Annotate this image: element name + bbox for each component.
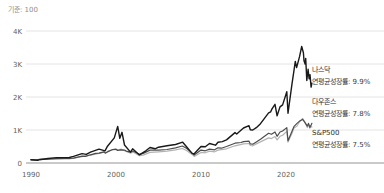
- x-axis-label: 1990: [22, 171, 40, 179]
- index-growth-chart: 기준: 100 4K3K2K1K01990200020102020 나스닥 연평…: [0, 0, 384, 193]
- series-annotation-sp500: S&P500 연평균성장률: 7.5%: [312, 129, 370, 150]
- series-growth-rate-nasdaq: 연평균성장률: 9.9%: [312, 78, 370, 87]
- series-name-sp500: S&P500: [312, 129, 370, 138]
- x-axis-label: 2000: [107, 171, 125, 179]
- series-name-nasdaq: 나스닥: [312, 66, 370, 75]
- series-line-sp500: [31, 118, 312, 160]
- x-axis-label: 2020: [277, 171, 295, 179]
- series-growth-rate-sp500: 연평균성장률: 7.5%: [312, 141, 370, 150]
- y-axis-label: 4K: [13, 28, 22, 36]
- y-axis-label: 1K: [13, 127, 22, 135]
- series-name-dow-jones: 다우존스: [312, 98, 370, 107]
- line-chart-canvas: 4K3K2K1K01990200020102020: [0, 0, 384, 193]
- y-axis-label: 2K: [13, 94, 22, 102]
- y-axis-label: 0: [18, 160, 22, 168]
- x-axis-label: 2010: [192, 171, 210, 179]
- y-axis-label: 3K: [13, 61, 22, 69]
- series-annotation-dow-jones: 다우존스 연평균성장률: 7.8%: [312, 98, 370, 119]
- series-line-dow-jones: [31, 119, 312, 160]
- series-growth-rate-dow-jones: 연평균성장률: 7.8%: [312, 110, 370, 119]
- series-annotation-nasdaq: 나스닥 연평균성장률: 9.9%: [312, 66, 370, 87]
